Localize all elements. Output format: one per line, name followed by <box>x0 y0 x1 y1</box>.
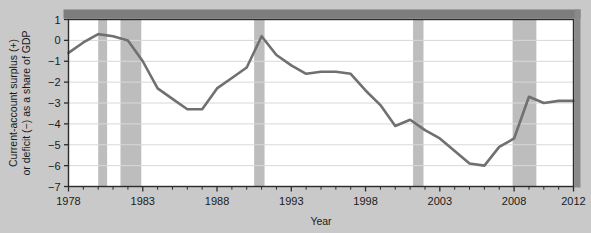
y-tick-label: −5 <box>48 139 61 151</box>
x-tick-label: 2012 <box>561 195 585 207</box>
y-axis-label: Current-account surplus (+)or deficit (−… <box>7 30 32 175</box>
x-tick-label: 2003 <box>428 195 452 207</box>
chart-figure: 19781983198819931998200320082012 10−1−2−… <box>0 0 591 233</box>
x-tick-label: 1978 <box>56 195 80 207</box>
x-tick-label: 1983 <box>131 195 155 207</box>
x-tick-label: 2008 <box>502 195 526 207</box>
current-account-balance-line-chart: 19781983198819931998200320082012 10−1−2−… <box>0 0 591 233</box>
y-tick-label: −6 <box>48 160 61 172</box>
y-tick-label: 0 <box>54 34 60 46</box>
y-tick-label: −4 <box>48 118 61 130</box>
x-tick-label: 1988 <box>205 195 229 207</box>
y-tick-label: 1 <box>54 14 60 26</box>
y-tick-label: −1 <box>48 55 61 67</box>
x-tick-label: 1993 <box>279 195 303 207</box>
y-tick-label: −3 <box>48 97 61 109</box>
y-axis-label-line: Current-account surplus (+) <box>7 39 19 167</box>
x-axis-label: Year <box>310 215 332 227</box>
x-tick-label: 1998 <box>353 195 377 207</box>
y-tick-label: −7 <box>48 181 61 193</box>
y-axis-label-line: or deficit (−) as a share of GDP <box>20 30 32 175</box>
y-tick-label: −2 <box>48 76 61 88</box>
